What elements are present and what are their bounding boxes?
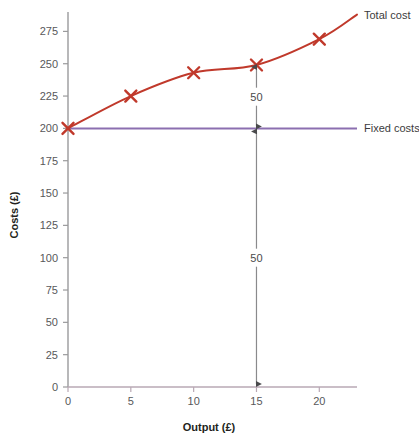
- y-tick-label: 200: [40, 122, 58, 134]
- y-tick-label: 250: [40, 58, 58, 70]
- fixed-costs-series-label: Fixed costs: [364, 122, 419, 134]
- chart-svg: 0255075100125150175200225250275 05101520…: [0, 0, 419, 443]
- y-tick-label: 50: [46, 316, 58, 328]
- x-tick-label: 20: [313, 395, 325, 407]
- x-tick-label: 5: [128, 395, 134, 407]
- y-tick-label: 125: [40, 219, 58, 231]
- y-tick-label: 0: [52, 381, 58, 393]
- annotation-upper-label: 50: [250, 91, 262, 103]
- y-tick-label: 275: [40, 25, 58, 37]
- y-tick-label: 175: [40, 155, 58, 167]
- y-axis-title: Costs (£): [8, 191, 20, 238]
- y-tick-label: 25: [46, 349, 58, 361]
- chart-background: [0, 0, 419, 443]
- y-tick-label: 75: [46, 284, 58, 296]
- x-axis-title: Output (£): [183, 421, 236, 433]
- x-tick-label: 10: [188, 395, 200, 407]
- y-tick-label: 150: [40, 187, 58, 199]
- y-tick-label: 100: [40, 252, 58, 264]
- y-tick-label: 225: [40, 90, 58, 102]
- total-cost-series-label: Total cost: [364, 9, 410, 21]
- x-tick-label: 15: [250, 395, 262, 407]
- cost-chart: 0255075100125150175200225250275 05101520…: [0, 0, 419, 443]
- annotation-lower-label: 50: [250, 252, 262, 264]
- x-tick-label: 0: [65, 395, 71, 407]
